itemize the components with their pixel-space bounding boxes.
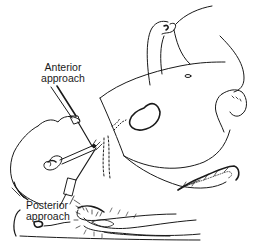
posterior-approach-label: Posterior approach: [26, 200, 78, 222]
anterior-label-line2: approach: [36, 73, 90, 84]
knee: [124, 156, 239, 190]
instrument-handle: [60, 146, 94, 164]
puncture-site: [92, 140, 102, 150]
torso: [100, 36, 244, 168]
medical-illustration: Anterior approach Posterior approach: [0, 0, 255, 250]
raised-arm: [147, 6, 212, 85]
posterior-label-line2: approach: [26, 211, 78, 222]
hip: [130, 104, 160, 130]
spine-dotted-lines: [103, 118, 126, 178]
anterior-approach-label: Anterior approach: [36, 62, 90, 84]
hand: [215, 90, 246, 132]
anterior-needle: [51, 86, 92, 146]
navel-mark: [185, 75, 191, 78]
